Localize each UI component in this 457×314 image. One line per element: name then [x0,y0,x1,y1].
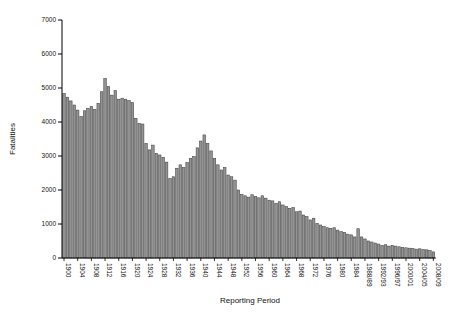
bar-1986/87 [357,229,360,258]
bar-1904 [76,110,79,258]
bar-1975 [319,225,322,258]
bar-1934 [179,165,182,258]
bar-1981 [340,232,343,258]
bar-1944 [213,158,216,258]
bar-1982 [343,232,346,258]
bar-1933 [176,168,179,258]
x-tick-label: 1904 [79,263,86,278]
bar-chart: 01000200030004000500060007000 1900190419… [0,0,457,314]
bar-1924 [145,143,148,258]
bar-1998/99 [398,247,401,258]
x-tick-label: 1908 [93,263,100,278]
bar-1952 [241,194,244,258]
bar-2000/01 [405,248,408,258]
x-tick-label: 1988/89 [366,263,373,287]
bar-1910 [97,103,100,258]
bar-1913 [107,87,110,258]
y-tick-label: 3000 [42,152,57,159]
x-tick-label: 2004/05 [421,263,428,287]
bar-1996/97 [391,245,394,258]
bar-1976 [323,227,326,258]
bar-1990/91 [371,242,374,258]
bar-1972 [309,220,312,258]
y-tick-label: 6000 [42,50,57,57]
x-tick-label: 1948 [230,263,237,278]
bar-1994/95 [384,245,387,258]
bar-1907 [87,108,90,258]
bar-1960 [268,200,271,258]
bar-1925 [148,150,151,258]
bar-1979 [333,228,336,258]
bar-1916 [117,99,120,258]
bar-1908 [90,107,93,258]
x-tick-label: 1976 [325,263,332,278]
bar-1926 [152,145,155,258]
x-tick-label: 1940 [202,263,209,278]
bars [63,78,435,258]
y-tick-label: 7000 [42,16,57,23]
bar-1999/00 [401,247,404,258]
bar-1955 [251,195,254,258]
y-tick-label: 5000 [42,84,57,91]
bar-1943 [210,151,213,258]
bar-1965 [285,207,288,258]
bar-1988/89 [364,239,367,258]
bar-1966 [288,208,291,258]
bar-1912 [104,78,107,258]
bar-2001/02 [408,248,411,258]
bar-1992/93 [377,244,380,258]
bar-2003/04 [415,249,418,258]
bar-1921 [135,118,138,258]
x-tick-label: 1980 [339,263,346,278]
bar-2002/03 [412,248,415,258]
x-tick-label: 1996/97 [394,263,401,287]
y-axis-title: Fatalities [8,123,17,155]
bar-1948 [227,175,230,258]
bar-1954 [247,197,250,258]
bar-1930 [165,162,168,258]
bar-1985 [353,237,356,258]
y-tick-label: 4000 [42,118,57,125]
bar-1964 [282,205,285,258]
x-tick-label: 1968 [298,263,305,278]
bar-1920 [131,103,134,258]
bar-1923 [141,124,144,258]
bar-1905 [80,117,83,258]
bar-1995/96 [388,246,391,258]
bar-1989/90 [367,241,370,258]
bar-1941 [203,135,206,258]
figure: 01000200030004000500060007000 1900190419… [0,0,457,314]
bar-1919 [128,101,131,258]
bar-1929 [162,157,165,258]
bar-1970 [302,215,305,258]
x-tick-label: 1928 [161,263,168,278]
bar-2004/05 [418,249,421,258]
bar-1903 [73,105,76,258]
bar-2005/06 [422,250,425,259]
bar-1991/92 [374,243,377,258]
bar-1980 [336,230,339,258]
bar-1968 [295,212,298,258]
bar-1931 [169,178,172,258]
bar-1928 [159,155,162,258]
y-tick-label: 0 [52,254,56,261]
bar-1956 [254,196,257,258]
bar-1997/98 [394,246,397,258]
x-axis-title: Reporting Period [220,296,280,305]
bar-1969 [299,211,302,258]
bar-1937 [189,158,192,258]
x-tick-label: 1984 [353,263,360,278]
bar-1984 [350,235,353,258]
x-tick-label: 1916 [120,263,127,278]
bar-2006/07 [425,250,428,258]
bar-1953 [244,196,247,258]
x-tick-label: 1912 [106,263,113,278]
x-axis: 1900190419081912191619201924192819321936… [62,258,442,287]
bar-1977 [326,228,329,258]
x-tick-label: 1920 [134,263,141,278]
bar-1901 [66,97,69,258]
bar-1946 [220,170,223,258]
x-tick-label: 2000/01 [407,263,414,287]
bar-1942 [206,143,209,258]
x-tick-label: 1964 [284,263,291,278]
